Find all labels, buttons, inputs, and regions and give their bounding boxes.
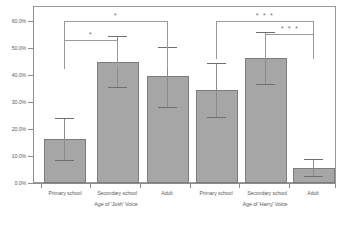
significance-star-harry-outer: * * *: [256, 13, 274, 20]
y-axis-tick: [28, 183, 33, 184]
significance-bracket-harry-inner: [265, 34, 314, 59]
y-axis-tick-label: 0.0%: [15, 180, 26, 186]
x-axis-tick: [41, 184, 42, 188]
y-axis-tick-label: 40.0%: [12, 72, 26, 78]
x-axis-label-josh-adult: Adult: [161, 190, 172, 196]
y-axis-tick: [28, 48, 33, 49]
bar-josh-adult: [147, 76, 189, 183]
x-axis-line: [33, 183, 336, 184]
x-axis-tick: [140, 184, 141, 188]
x-axis-label-josh-secondary: Secondary school: [97, 190, 137, 196]
x-axis-tick: [190, 184, 191, 188]
bar-chart-figure: 0.0% 10.0% 20.0% 30.0% 40.0% 50.0% 60.0%…: [0, 0, 343, 225]
y-axis-tick-label: 10.0%: [12, 153, 26, 159]
y-axis-tick: [28, 156, 33, 157]
y-axis-tick-label: 50.0%: [12, 45, 26, 51]
y-axis-tick: [28, 129, 33, 130]
y-axis-line: [33, 6, 34, 184]
significance-star-josh-outer: *: [114, 13, 118, 20]
error-bar-stem: [313, 159, 314, 176]
error-bar-cap-lower: [304, 176, 323, 177]
significance-star-josh-inner: *: [89, 32, 93, 39]
error-bar-cap-lower: [158, 107, 177, 108]
y-axis-tick-label: 30.0%: [12, 99, 26, 105]
bar-josh-secondary: [97, 62, 139, 183]
group-label-josh: Age of 'Josh' Voice: [94, 201, 137, 207]
x-axis-tick: [289, 184, 290, 188]
x-axis-label-harry-primary: Primary school: [200, 190, 233, 196]
x-axis-tick: [335, 184, 336, 188]
y-axis-tick: [28, 75, 33, 76]
x-axis-label-josh-primary: Primary school: [49, 190, 82, 196]
error-bar-cap-upper: [55, 118, 74, 119]
significance-bracket-josh-inner: [64, 40, 118, 69]
x-axis-label-harry-secondary: Secondary school: [247, 190, 287, 196]
error-bar-cap-upper: [304, 159, 323, 160]
error-bar-cap-lower: [207, 117, 226, 118]
error-bar-cap-upper: [207, 63, 226, 64]
error-bar-cap-lower: [55, 160, 74, 161]
y-axis-tick-label: 20.0%: [12, 126, 26, 132]
group-label-harry: Age of 'Harry' Voice: [242, 201, 287, 207]
x-axis-label-harry-adult: Adult: [307, 190, 318, 196]
bar-harry-primary: [196, 90, 238, 183]
error-bar-stem: [64, 118, 65, 160]
error-bar-cap-lower: [256, 84, 275, 85]
error-bar-cap-lower: [108, 87, 127, 88]
x-axis-tick: [90, 184, 91, 188]
x-axis-tick: [239, 184, 240, 188]
bar-josh-primary: [44, 139, 86, 183]
y-axis-tick: [28, 102, 33, 103]
error-bar-stem: [216, 63, 217, 117]
bar-harry-secondary: [245, 58, 287, 183]
significance-star-harry-inner: * * *: [281, 26, 299, 33]
y-axis-tick: [28, 21, 33, 22]
y-axis-tick-label: 60.0%: [12, 18, 26, 24]
